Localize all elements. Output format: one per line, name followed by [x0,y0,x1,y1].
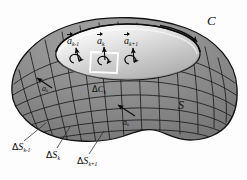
circulation-symbol: C [98,84,104,94]
label-surface: S [178,99,184,111]
label-vector-a-k: ak [97,36,104,46]
label-vector-a-k-plus-1: ak+1 [124,36,138,46]
normal-subscript-mid: k [127,122,129,127]
label-normal-a-k-left: ak [42,85,48,93]
vector-subscript-next: k+1 [129,41,138,47]
label-circulation-delta-c-k: ΔCk [92,85,106,94]
vector-arrow-accent-icon [124,34,129,35]
vector-arrow-accent-icon [97,34,102,35]
label-boundary-curve: C [207,14,216,27]
label-normal-a-k-mid: ak [123,119,129,127]
patch-subscript-prev: k-1 [23,147,30,153]
label-patch-delta-s-k-plus-1: ΔSk+1 [77,156,97,166]
figure-canvas: C S ak-1 ak ak+1 ΔCk ak ak ΔSk-1 ΔSk ΔSk… [0,0,247,180]
patch-subscript-k: k [57,155,59,161]
circulation-subscript: k [104,90,106,95]
vector-subscript-prev: k-1 [72,41,79,47]
label-vector-a-k-minus-1: ak-1 [67,36,79,46]
patch-subscript-next: k+1 [88,161,97,167]
label-patch-delta-s-k: ΔSk [46,150,60,160]
vector-arrow-accent-icon [67,34,72,35]
normal-subscript-left: k [46,88,48,93]
vector-subscript-k: k [102,41,104,47]
label-patch-delta-s-k-minus-1: ΔSk-1 [12,142,30,152]
